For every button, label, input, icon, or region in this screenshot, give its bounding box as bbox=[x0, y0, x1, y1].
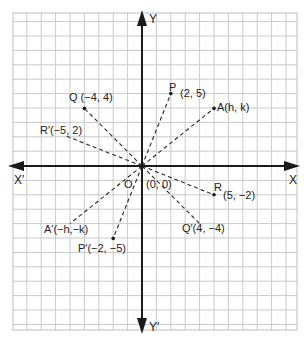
point-O bbox=[140, 164, 144, 168]
label-Rp: R′(−5, 2) bbox=[40, 124, 82, 136]
x-axis-label: X bbox=[289, 173, 297, 187]
x-prime-axis-label: X′ bbox=[14, 173, 25, 187]
point-Pp bbox=[111, 237, 115, 241]
axes bbox=[8, 10, 300, 334]
label-Qp: Q′(4, −4) bbox=[182, 222, 225, 234]
label-P-coord: (2, 5) bbox=[180, 87, 206, 99]
y-prime-axis-label: Y′ bbox=[149, 320, 160, 334]
y-axis-label: Y bbox=[149, 12, 157, 26]
y-axis-down-arrow-icon bbox=[137, 318, 147, 334]
label-A: A(h, k) bbox=[217, 101, 249, 113]
label-R-coord: (5, −2) bbox=[223, 189, 255, 201]
point-Q bbox=[83, 107, 87, 111]
point-R bbox=[212, 193, 216, 197]
label-Pp: P′(−2, −5) bbox=[78, 242, 126, 254]
label-O-coord: (0, 0) bbox=[146, 178, 172, 190]
coordinate-plane-diagram: Y Y′ X X′ P (2, 5) A(h, k) Q (−4, 4) R′(… bbox=[0, 0, 304, 339]
label-O: O bbox=[124, 178, 133, 190]
label-R-name: R bbox=[214, 181, 222, 193]
point-A bbox=[212, 107, 216, 111]
x-axis-left-arrow-icon bbox=[8, 161, 24, 171]
x-axis-right-arrow-icon bbox=[284, 161, 300, 171]
label-P-name: P bbox=[169, 81, 176, 93]
label-Ap: A′(−h,−k) bbox=[44, 223, 88, 235]
label-Q: Q (−4, 4) bbox=[69, 91, 113, 103]
y-axis-up-arrow-icon bbox=[137, 10, 147, 26]
